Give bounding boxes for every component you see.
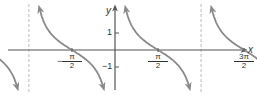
cot-branch <box>126 9 189 87</box>
y-tick-label: 1 <box>107 28 112 37</box>
x-axis-label: x <box>248 44 253 55</box>
cot-graph <box>0 0 257 95</box>
fraction: π2 <box>62 53 82 70</box>
cot-branch <box>0 9 17 87</box>
cot-curves <box>0 9 257 87</box>
cot-branch <box>40 9 103 87</box>
y-axis-label: y <box>106 5 111 16</box>
y-tick-label: −1 <box>102 62 112 71</box>
fraction: π2 <box>148 53 168 70</box>
fraction: 3π2 <box>234 53 254 70</box>
